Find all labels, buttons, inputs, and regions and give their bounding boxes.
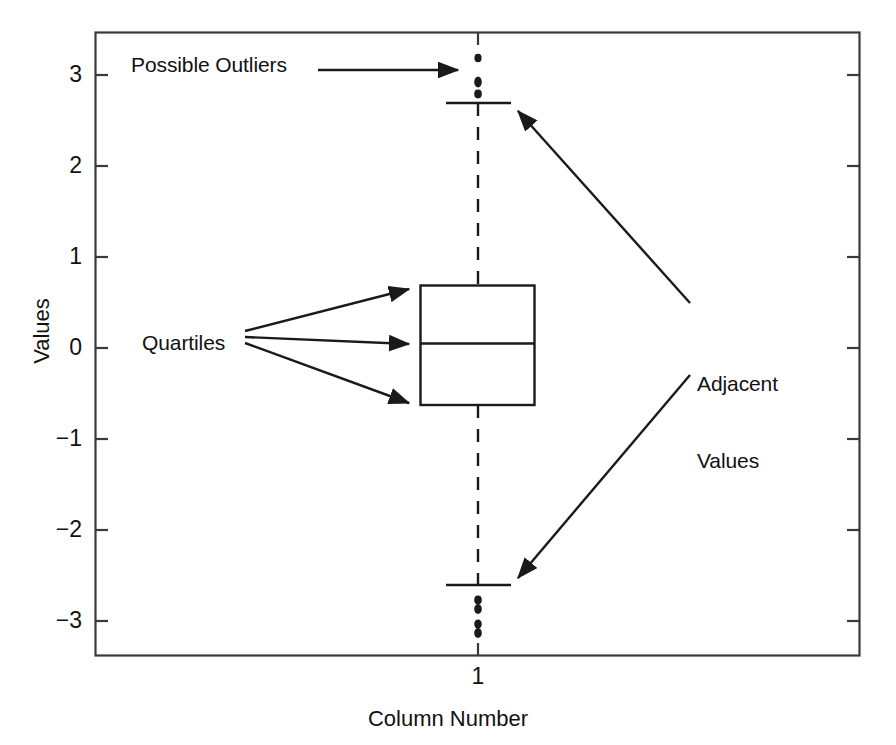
annotation-adjacent-values-line1: Adjacent bbox=[697, 371, 778, 397]
y-axis-title-wrapper: Values bbox=[29, 271, 55, 391]
outlier-point bbox=[474, 596, 482, 605]
y-tick-label: −2 bbox=[28, 516, 82, 543]
quartile-box bbox=[421, 286, 535, 406]
y-tick-label: −1 bbox=[28, 425, 82, 452]
annotation-adjacent-values: Adjacent Values bbox=[697, 320, 778, 525]
outlier-point bbox=[474, 619, 482, 628]
outlier-point bbox=[474, 54, 481, 62]
annotation-possible-outliers: Possible Outliers bbox=[131, 52, 287, 78]
boxplot-figure: 3 2 1 0 −1 −2 −3 Values 1 Column Number … bbox=[0, 0, 896, 745]
adjacent-arrow-upper bbox=[518, 111, 690, 303]
adjacent-values-annotation-arrows bbox=[518, 111, 690, 578]
quartiles-arrow-q3 bbox=[245, 289, 409, 331]
y-axis-ticks-right bbox=[847, 75, 860, 621]
y-tick-label: 3 bbox=[40, 61, 82, 88]
y-tick-label: −3 bbox=[28, 607, 82, 634]
outlier-points-upper bbox=[474, 54, 482, 99]
outlier-point bbox=[474, 604, 482, 614]
y-axis-ticks bbox=[96, 75, 109, 621]
outlier-point bbox=[474, 90, 482, 99]
y-tick-label: 2 bbox=[40, 152, 82, 179]
quartiles-arrow-q1 bbox=[245, 343, 409, 403]
annotation-adjacent-values-line2: Values bbox=[697, 448, 778, 474]
quartiles-annotation-arrows bbox=[245, 289, 409, 403]
quartiles-arrow-median bbox=[245, 337, 409, 344]
outlier-point bbox=[474, 77, 482, 88]
outlier-points-lower bbox=[474, 596, 482, 638]
x-tick-label: 1 bbox=[440, 663, 516, 690]
y-axis-title: Values bbox=[29, 298, 54, 364]
annotation-quartiles: Quartiles bbox=[142, 330, 225, 356]
outlier-point bbox=[474, 628, 482, 638]
x-axis-title: Column Number bbox=[0, 706, 896, 732]
y-tick-label: 1 bbox=[40, 243, 82, 270]
adjacent-arrow-lower bbox=[518, 375, 690, 578]
